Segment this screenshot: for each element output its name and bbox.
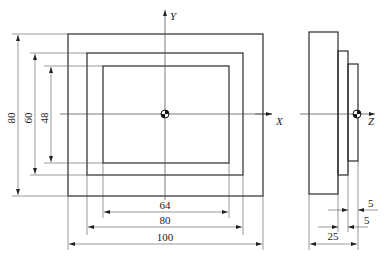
- dim-60-vertical: 60: [22, 112, 34, 124]
- dim-48-vertical: 48: [38, 112, 50, 124]
- x-axis-label: X: [275, 115, 284, 127]
- engineering-drawing: Y X 80 60 48 64 80 100: [0, 0, 389, 262]
- side-step-1: [338, 51, 348, 175]
- dim-25: 25: [328, 230, 340, 242]
- dim-64-horizontal: 64: [160, 199, 172, 211]
- origin-symbol-side-icon: [353, 110, 361, 118]
- side-base: [309, 32, 338, 194]
- dim-80-vertical: 80: [5, 112, 17, 124]
- y-axis-label: Y: [170, 10, 178, 22]
- origin-symbol-icon: [161, 110, 169, 118]
- dim-5-bottom: 5: [364, 214, 370, 226]
- side-view: Z 5 5 25: [300, 32, 378, 250]
- dim-80-horizontal: 80: [160, 214, 172, 226]
- z-axis-label: Z: [368, 115, 375, 127]
- dim-5-top: 5: [368, 197, 374, 209]
- dim-100-horizontal: 100: [157, 231, 174, 243]
- front-view: Y X 80 60 48 64 80 100: [5, 10, 284, 250]
